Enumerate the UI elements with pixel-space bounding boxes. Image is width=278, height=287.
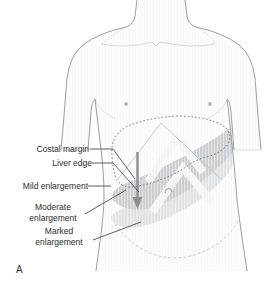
label-marked-enlargement: Marked enlargement [28,226,90,247]
figure-panel: Costal margin Liver edge Mild enlargemen… [0,0,278,287]
label-costal-margin: Costal margin [37,144,89,155]
panel-letter: A [16,264,23,275]
label-moderate-enlargement: Moderate enlargement [22,202,84,223]
nipple-right [208,102,212,106]
label-liver-edge: Liver edge [52,158,92,169]
label-mild-enlargement: Mild enlargement [23,181,88,192]
nipple-left [124,102,128,106]
